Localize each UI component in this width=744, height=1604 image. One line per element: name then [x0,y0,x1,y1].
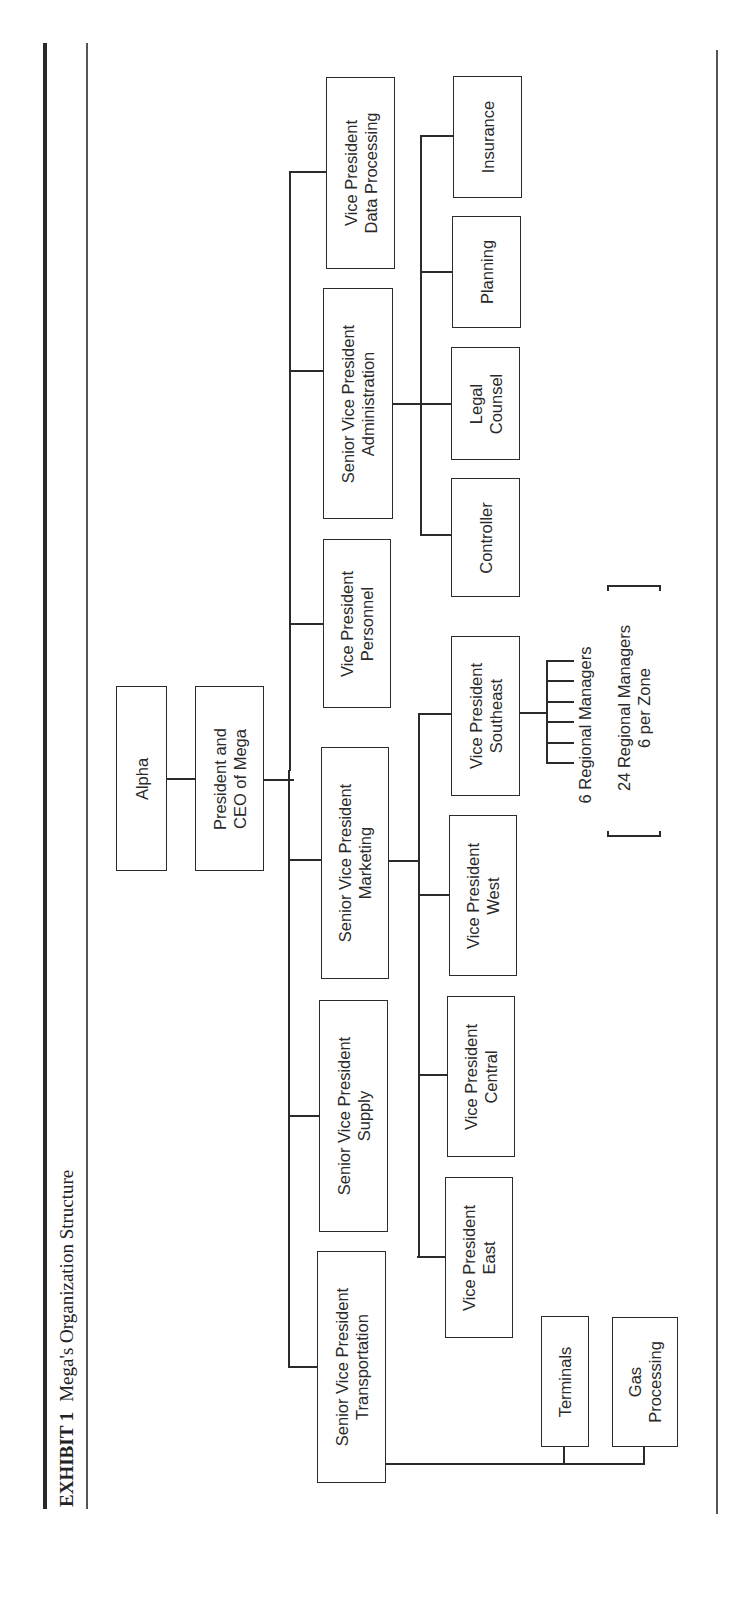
regional-bracket-bottom [607,831,661,837]
personnel-line2: Personnel [357,570,377,676]
org-box-insurance: Insurance [453,76,522,198]
org-box-vp-west: Vice President West [449,815,517,976]
ceo-label-line1: President and [210,728,230,830]
exhibit-label: EXHIBIT 1 [56,1412,77,1507]
org-box-administration: Senior Vice President Administration [323,288,393,519]
org-box-planning: Planning [452,216,521,328]
org-box-ceo: President and CEO of Mega [195,686,264,871]
connector-marketing [289,859,322,861]
org-box-marketing: Senior Vice President Marketing [321,747,389,979]
org-box-alpha: Alpha [116,686,167,871]
connector-transport-units [385,1463,645,1465]
transportation-line2: Transportation [352,1288,372,1446]
southeast-line2: Southeast [486,663,506,769]
regional-manager-tick [547,721,574,723]
data-processing-line1: Vice President [341,112,361,233]
administration-line1: Senior Vice President [338,324,358,482]
connector-transportation [288,1366,318,1368]
regional-manager-tick [547,680,574,682]
connector-legal [421,403,451,405]
connector-gas-processing [643,1446,645,1464]
exhibit-title: EXHIBIT 1Mega's Organization Structure [56,1170,78,1507]
org-box-supply: Senior Vice President Supply [319,1000,388,1232]
east-line1: Vice President [459,1204,479,1310]
connector-terminals [563,1446,565,1464]
planning-label: Planning [477,240,497,304]
org-box-gas-processing: Gas Processing [612,1317,678,1447]
org-box-controller: Controller [451,478,520,597]
southeast-line1: Vice President [466,663,486,769]
insurance-label: Insurance [478,101,498,173]
transportation-line1: Senior Vice President [332,1288,352,1446]
connector-insurance [421,135,453,137]
connector-southeast-comb [519,712,547,714]
org-box-vp-central: Vice President Central [447,996,515,1157]
marketing-line1: Senior Vice President [335,784,355,942]
connector-controller [420,534,451,536]
regional-bracket-line1: 24 Regional Managers [614,590,634,826]
regional-managers-count: 6 Regional Managers [575,640,595,810]
org-box-vp-east: Vice President East [445,1177,513,1338]
org-box-personnel: Vice President Personnel [323,539,391,708]
regional-bracket-note: 24 Regional Managers 6 per Zone [614,590,654,826]
west-line1: Vice President [463,842,483,948]
org-box-vp-southeast: Vice President Southeast [451,636,520,796]
connector-marketing-subspine [388,860,419,862]
controller-label: Controller [476,502,496,574]
connector-alpha-ceo [166,778,196,780]
regional-manager-tick [547,701,574,703]
connector-supply [289,1115,320,1117]
marketing-subspine [418,713,420,1257]
header-thin-rule [86,43,88,1509]
administration-line2: Administration [358,324,378,482]
east-line2: East [479,1204,499,1310]
central-line2: Central [481,1023,501,1129]
exhibit-page: EXHIBIT 1Mega's Organization Structure A… [0,0,744,1604]
connector-admin-subspine [392,403,422,405]
connector-administration [290,370,324,372]
connector-personnel [290,623,324,625]
gas-processing-line2: Processing [645,1341,665,1423]
legal-counsel-line1: Legal [466,373,486,434]
terminals-label: Terminals [555,1346,575,1417]
org-box-terminals: Terminals [541,1316,589,1447]
exhibit-title-text: Mega's Organization Structure [56,1170,77,1402]
connector-west [419,894,449,896]
gas-processing-line1: Gas [625,1341,645,1423]
regional-manager-tick [547,762,574,764]
supply-line2: Supply [354,1037,374,1195]
org-box-legal-counsel: Legal Counsel [451,347,520,460]
connector-central [418,1074,447,1076]
personnel-line1: Vice President [337,570,357,676]
regional-comb-spine [546,660,548,764]
connector-data-processing [290,171,326,173]
footer-rule [716,50,718,1514]
data-processing-line2: Data Processing [361,112,381,233]
admin-subspine [420,135,422,536]
west-line2: West [483,842,503,948]
regional-manager-tick [547,660,574,662]
legal-counsel-line2: Counsel [486,373,506,434]
ceo-label-line2: CEO of Mega [230,728,250,830]
header-thick-rule [43,43,47,1509]
connector-east [417,1256,445,1258]
regional-bracket-line2: 6 per Zone [634,590,654,826]
org-box-transportation: Senior Vice President Transportation [317,1251,386,1483]
marketing-line2: Marketing [355,784,375,942]
connector-planning [421,271,452,273]
alpha-label: Alpha [132,757,152,799]
central-line1: Vice President [461,1023,481,1129]
supply-line1: Senior Vice President [334,1037,354,1195]
org-box-data-processing: Vice President Data Processing [326,77,395,269]
regional-manager-tick [547,742,574,744]
connector-southeast [419,713,451,715]
main-spine [289,171,291,771]
